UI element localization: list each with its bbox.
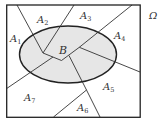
label-a6: A6 xyxy=(77,103,88,115)
label-omega: Ω xyxy=(149,11,157,21)
label-a4: A4 xyxy=(114,31,125,43)
diagram-canvas: A1 A2 A3 A4 A5 A6 A7 B Ω xyxy=(0,0,161,133)
label-a3: A3 xyxy=(80,11,91,23)
label-a7: A7 xyxy=(24,93,35,105)
label-a2: A2 xyxy=(37,15,48,27)
label-a5: A5 xyxy=(103,82,114,94)
label-a1: A1 xyxy=(10,34,21,46)
label-b: B xyxy=(59,45,67,56)
event-b-ellipse xyxy=(20,26,117,83)
